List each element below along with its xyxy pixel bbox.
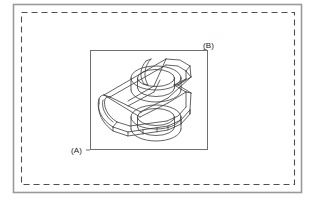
figure-canvas bbox=[0, 0, 314, 204]
callout-label-a: (A) bbox=[71, 146, 82, 155]
figure-root: (A) (B) bbox=[0, 0, 314, 204]
callout-label-b: (B) bbox=[203, 41, 214, 50]
